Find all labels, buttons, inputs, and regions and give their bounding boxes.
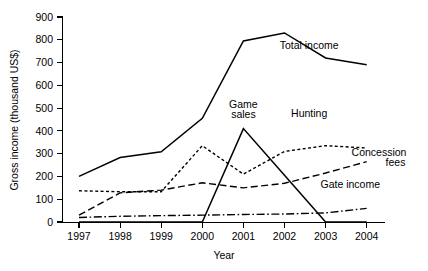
y-tick-label: 400 bbox=[35, 125, 53, 137]
series-annotation: Total income bbox=[280, 39, 339, 51]
series-annotation: sales bbox=[231, 108, 256, 120]
x-tick-label: 1999 bbox=[150, 230, 174, 242]
y-tick-label: 800 bbox=[35, 33, 53, 45]
y-tick-label: 0 bbox=[47, 216, 53, 228]
x-tick-label: 2003 bbox=[314, 230, 338, 242]
series-line-total-income bbox=[79, 33, 367, 177]
series-lines bbox=[79, 33, 367, 222]
x-tick-label: 2001 bbox=[232, 230, 256, 242]
y-axis-title: Gross income (thousand US$) bbox=[8, 49, 20, 190]
x-tick-label: 1997 bbox=[67, 230, 91, 242]
y-tick-label: 600 bbox=[35, 79, 53, 91]
x-tick-label: 1998 bbox=[108, 230, 132, 242]
series-annotation: fees bbox=[386, 156, 406, 168]
y-axis-group: 0100200300400500600700800900 bbox=[35, 11, 62, 228]
x-axis-ticks bbox=[79, 223, 367, 229]
x-tick-label: 2004 bbox=[355, 230, 379, 242]
x-tick-label: 2002 bbox=[273, 230, 297, 242]
x-tick-label: 2000 bbox=[191, 230, 215, 242]
y-axis-tick-labels: 0100200300400500600700800900 bbox=[35, 11, 53, 228]
series-line-gate-income bbox=[79, 208, 367, 217]
y-axis-ticks bbox=[57, 17, 63, 222]
series-line-game-sales bbox=[79, 129, 367, 222]
y-tick-label: 900 bbox=[35, 11, 53, 23]
y-tick-label: 100 bbox=[35, 193, 53, 205]
x-axis-tick-labels: 19971998199920002001200220032004 bbox=[67, 230, 378, 242]
series-annotation: Hunting bbox=[291, 107, 327, 119]
series-annotation: Gate income bbox=[320, 178, 380, 190]
y-tick-label: 500 bbox=[35, 102, 53, 114]
x-axis-group: 19971998199920002001200220032004 bbox=[63, 223, 386, 243]
chart-figure: 0100200300400500600700800900 19971998199… bbox=[0, 0, 428, 271]
y-tick-label: 200 bbox=[35, 170, 53, 182]
line-chart-svg: 0100200300400500600700800900 19971998199… bbox=[0, 0, 428, 271]
x-axis-title: Year bbox=[213, 249, 235, 261]
y-tick-label: 300 bbox=[35, 147, 53, 159]
y-tick-label: 700 bbox=[35, 56, 53, 68]
